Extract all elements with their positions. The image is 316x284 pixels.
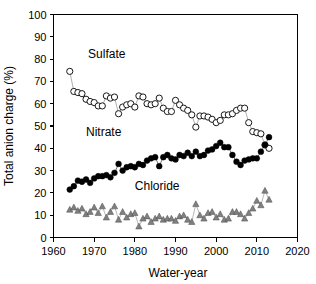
data-point-marker bbox=[254, 197, 260, 203]
data-point-marker bbox=[87, 180, 93, 186]
data-point-marker bbox=[246, 120, 252, 126]
data-point-marker bbox=[217, 211, 223, 217]
x-tick-label: 1990 bbox=[163, 245, 187, 257]
data-point-marker bbox=[111, 94, 117, 100]
data-point-marker bbox=[254, 155, 260, 161]
data-point-marker bbox=[152, 101, 158, 107]
data-point-marker bbox=[250, 205, 256, 211]
data-point-marker bbox=[152, 154, 158, 160]
series-annotation-sulfate: Sulfate bbox=[88, 47, 126, 61]
data-point-marker bbox=[71, 183, 77, 189]
data-point-marker bbox=[136, 223, 142, 229]
data-point-marker bbox=[156, 213, 162, 219]
series-chloride bbox=[67, 187, 273, 229]
data-point-marker bbox=[107, 209, 113, 215]
data-point-marker bbox=[156, 95, 162, 101]
anion-charge-chart: 0102030405060708090100 19601970198019902… bbox=[0, 0, 316, 284]
data-point-marker bbox=[112, 170, 118, 176]
data-point-marker bbox=[168, 108, 174, 114]
data-point-marker bbox=[173, 157, 179, 163]
y-tick-label: 80 bbox=[34, 53, 46, 65]
data-point-marker bbox=[230, 152, 236, 158]
data-point-marker bbox=[266, 196, 272, 202]
series-annotations: SulfateNitrateChloride bbox=[86, 47, 180, 193]
data-point-marker bbox=[217, 140, 223, 146]
data-series-layer bbox=[67, 68, 273, 229]
data-point-marker bbox=[238, 162, 244, 168]
data-point-marker bbox=[168, 215, 174, 221]
y-tick-label: 100 bbox=[28, 9, 46, 21]
data-point-marker bbox=[115, 216, 121, 222]
x-tick-label: 1960 bbox=[41, 245, 65, 257]
x-axis-ticks: 1960197019801990200020102020 bbox=[41, 238, 309, 257]
data-point-marker bbox=[197, 212, 203, 218]
y-axis-ticks: 0102030405060708090100 bbox=[28, 9, 53, 244]
data-point-marker bbox=[225, 144, 231, 150]
data-point-marker bbox=[156, 163, 162, 169]
data-point-marker bbox=[132, 104, 138, 110]
x-tick-label: 2020 bbox=[285, 245, 309, 257]
x-tick-label: 1970 bbox=[82, 245, 106, 257]
data-point-marker bbox=[266, 134, 272, 140]
data-point-marker bbox=[193, 124, 199, 130]
data-point-marker bbox=[111, 203, 117, 209]
series-annotation-nitrate: Nitrate bbox=[86, 125, 122, 139]
y-tick-label: 70 bbox=[34, 75, 46, 87]
x-tick-label: 1980 bbox=[123, 245, 147, 257]
x-tick-label: 2010 bbox=[245, 245, 269, 257]
data-point-marker bbox=[79, 205, 85, 211]
y-tick-label: 10 bbox=[34, 209, 46, 221]
data-point-marker bbox=[140, 94, 146, 100]
data-point-marker bbox=[209, 209, 215, 215]
data-point-marker bbox=[189, 153, 195, 159]
data-point-marker bbox=[258, 131, 264, 137]
data-point-marker bbox=[189, 112, 195, 118]
data-point-marker bbox=[116, 161, 122, 167]
data-point-marker bbox=[108, 174, 114, 180]
y-tick-label: 50 bbox=[34, 120, 46, 132]
data-point-marker bbox=[242, 105, 248, 111]
x-axis-title: Water-year bbox=[149, 266, 208, 280]
data-point-marker bbox=[262, 187, 268, 193]
data-point-marker bbox=[201, 152, 207, 158]
data-point-marker bbox=[225, 215, 231, 221]
y-tick-label: 90 bbox=[34, 31, 46, 43]
series-annotation-chloride: Chloride bbox=[135, 179, 180, 193]
data-point-marker bbox=[193, 149, 199, 155]
y-axis-title: Total anion charge (%) bbox=[2, 66, 16, 186]
y-tick-label: 20 bbox=[34, 187, 46, 199]
chart-figure: 0102030405060708090100 19601970198019902… bbox=[0, 0, 316, 284]
y-tick-label: 60 bbox=[34, 98, 46, 110]
data-point-marker bbox=[262, 142, 268, 148]
data-point-marker bbox=[99, 203, 105, 209]
x-tick-label: 2000 bbox=[204, 245, 228, 257]
data-point-marker bbox=[132, 210, 138, 216]
y-tick-label: 0 bbox=[40, 232, 46, 244]
data-point-marker bbox=[115, 111, 121, 117]
data-point-marker bbox=[119, 209, 125, 215]
data-point-marker bbox=[99, 103, 105, 109]
y-tick-label: 30 bbox=[34, 165, 46, 177]
data-point-marker bbox=[91, 204, 97, 210]
data-point-marker bbox=[258, 149, 264, 155]
data-point-marker bbox=[140, 162, 146, 168]
data-point-marker bbox=[217, 117, 223, 123]
y-tick-label: 40 bbox=[34, 142, 46, 154]
data-point-marker bbox=[144, 213, 150, 219]
data-point-marker bbox=[67, 68, 73, 74]
data-point-marker bbox=[79, 91, 85, 97]
data-point-marker bbox=[233, 209, 239, 215]
data-point-marker bbox=[71, 204, 77, 210]
data-point-marker bbox=[193, 201, 199, 207]
data-point-marker bbox=[180, 212, 186, 218]
